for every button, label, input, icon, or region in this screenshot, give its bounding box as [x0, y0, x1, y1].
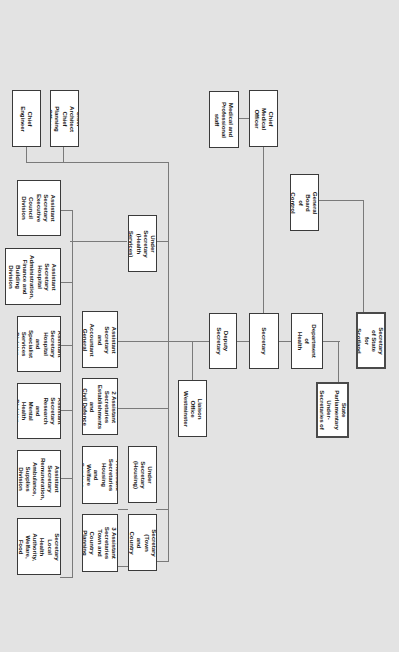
node-department-of-health: Department of Health: [291, 313, 323, 369]
node-as-research-mental-health: Assistant Secretary Research and Mental …: [17, 383, 61, 439]
node-deputy-secretary: Deputy Secretary: [209, 313, 237, 369]
node-secretary-of-state: Secretary of State for Scotland: [356, 312, 386, 369]
connector-sos-vertical: [363, 200, 364, 313]
node-as-hospital-admin: Assistant Secretary Hospital Administrat…: [5, 248, 61, 305]
node-liaison-office: Liaison Office Westminster: [178, 380, 207, 437]
connector-housing: [156, 509, 169, 510]
connector-secretary-to-deputy: [236, 341, 249, 342]
connector-minister: [338, 341, 339, 383]
connector-engineer: [26, 146, 27, 163]
node-secretary: Secretary: [249, 313, 279, 369]
connector-div-remuneration: [60, 478, 73, 479]
connector-div-local-health: [60, 577, 73, 578]
connector-main-horizontal: [118, 341, 210, 342]
connector-divisions-vertical: [72, 210, 73, 578]
node-chief-engineer: Chief Engineer: [12, 90, 41, 147]
node-minister-of-state: Minister of State Parliamentary Under-Se…: [316, 382, 349, 438]
node-assistant-secretaries-town: 3 Assistant Secretaries Town and Country…: [82, 514, 118, 572]
connector-dept-to-secretary: [278, 341, 292, 342]
connector-liaison: [192, 341, 193, 381]
connector-cmo-vertical: [263, 146, 264, 313]
org-chart-page: Secretary of State for Scotland Minister…: [0, 0, 399, 652]
node-assistant-secretaries-establishments: 2 Assistant Secretaries Establishments a…: [82, 378, 118, 435]
connector-ush-to-divisions: [70, 241, 127, 242]
connector-div-hosp-spec: [60, 345, 73, 346]
node-chief-medical-officer: Chief Medical Officer: [249, 90, 278, 147]
connector-establishments: [118, 408, 169, 409]
node-assistant-secretary-accountant: Assistant Secretary and Accountant Gener…: [82, 311, 118, 368]
connector-housing-as: [118, 509, 128, 510]
connector-town: [156, 561, 169, 562]
connector-top-horizontal: [26, 162, 169, 163]
connector-town-as: [118, 566, 128, 567]
node-chief-architect: Chief Architect Chief Planning Officer: [50, 90, 79, 147]
connector-div-research: [60, 410, 73, 411]
node-general-board: General Board of Control: [290, 174, 319, 231]
node-under-secretary-housing: Under Secretary (Housing): [128, 446, 157, 503]
node-as-remuneration: Assistant Secretary Remuneration, Ambula…: [17, 450, 61, 507]
connector-ush-to-spine: [156, 241, 169, 242]
node-as-hospital-specialist: Assistant Secretary Hospital and Special…: [17, 316, 61, 372]
node-under-secretary-health: Under Secretary (Health Services): [128, 215, 157, 272]
connector-architect: [63, 146, 64, 163]
node-as-executive-council: Assistant Secretary Executive Council Di…: [17, 180, 61, 236]
connector-board-to-sos: [318, 200, 364, 201]
node-medical-staff: Medical and Professional staff: [209, 91, 239, 148]
connector-div-hosp-admin: [60, 282, 73, 283]
node-under-secretary-town: Under Secretary (Town and Country Planni…: [128, 514, 157, 571]
connector-spine-vertical: [168, 162, 169, 561]
connector-div-exec: [60, 210, 73, 211]
node-as-local-health: Assistant Secretary Local Health Authori…: [17, 518, 61, 575]
node-assistant-secretaries-housing: 4 Assistant Secretaries Housing and Welf…: [82, 446, 118, 504]
